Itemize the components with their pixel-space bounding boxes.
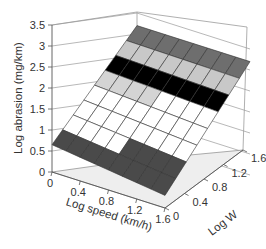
z-tick-label: 0 [39,166,45,178]
y-tick-label: 0.8 [212,181,227,193]
surface-plot: 00.511.522.533.5 00.40.81.21.6 00.40.81.… [0,0,266,249]
y-tick-label: 1.2 [232,167,247,179]
y-tick-label: 0.4 [193,196,208,208]
z-tick-label: 3 [39,40,45,52]
z-tick-label: 1 [39,124,45,136]
z-axis-label: Log abrasion (mg/km) [12,42,24,154]
x-tick-label: 0 [47,177,53,189]
z-tick-label: 2.5 [30,61,45,73]
z-axis-ticks: 00.511.522.533.5 [30,19,52,178]
y-tick-label: 1.6 [251,152,266,164]
y-axis-label: Log W [206,208,240,238]
y-tick-label: 0 [173,210,179,222]
z-tick-label: 2 [39,82,45,94]
x-tick-label: 1.6 [155,213,170,225]
z-tick-label: 0.5 [30,145,45,157]
z-tick-label: 1.5 [30,103,45,115]
z-tick-label: 3.5 [30,19,45,31]
